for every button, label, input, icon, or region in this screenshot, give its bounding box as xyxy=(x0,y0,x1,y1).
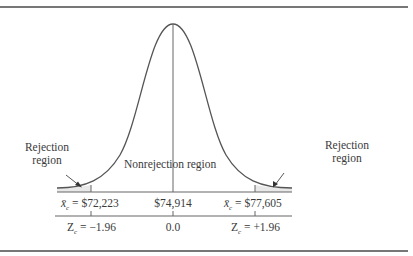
figure: Rejection region Rejection region Nonrej… xyxy=(0,0,413,256)
left-critical-z-value: Zc = −1.96 xyxy=(67,221,116,239)
mean-x-value: $74,914 xyxy=(143,197,203,210)
right-rejection-label: Rejection region xyxy=(314,139,380,165)
right-critical-x-value: x̄c = $77,605 xyxy=(224,197,282,215)
mean-z-value: 0.0 xyxy=(153,221,193,234)
nonrejection-label: Nonrejection region xyxy=(124,158,216,171)
normal-curve-graphic xyxy=(0,0,413,256)
left-critical-x-value: x̄c = $72,223 xyxy=(61,197,119,215)
right-critical-z-value: Zc = +1.96 xyxy=(231,221,280,239)
left-rejection-label: Rejection region xyxy=(14,141,80,167)
